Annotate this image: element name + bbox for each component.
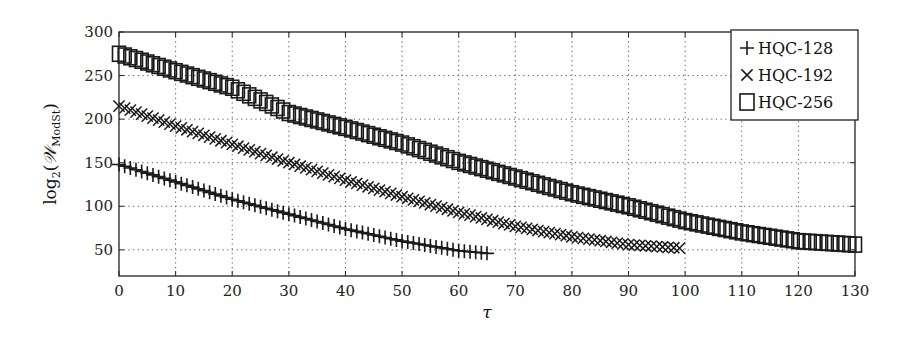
y-tick-label: 50 (94, 241, 113, 259)
y-tick-label: 250 (84, 67, 113, 85)
x-tick-label: 10 (166, 282, 185, 300)
legend: HQC-128HQC-192HQC-256 (731, 30, 858, 120)
y-tick-label: 150 (84, 154, 113, 172)
legend-label: HQC-256 (758, 93, 833, 112)
x-tick-label: 0 (114, 282, 124, 300)
legend-label: HQC-128 (758, 39, 833, 58)
x-tick-label: 120 (784, 282, 813, 300)
x-tick-label: 40 (336, 282, 355, 300)
svg-text:log2(𝒲ModSt): log2(𝒲ModSt) (40, 103, 63, 205)
x-tick-label: 110 (727, 282, 756, 300)
x-tick-label: 50 (393, 282, 412, 300)
series-hqc-192 (113, 100, 685, 253)
x-tick-label: 90 (619, 282, 638, 300)
x-tick-label: 60 (449, 282, 468, 300)
x-axis-label: τ (482, 302, 492, 322)
y-tick-label: 200 (84, 110, 113, 128)
x-tick-label: 30 (279, 282, 298, 300)
x-tick-label: 70 (506, 282, 525, 300)
x-tick-label: 130 (841, 282, 870, 300)
chart: 0102030405060708090100110120130 50100150… (0, 0, 909, 340)
x-tick-label: 20 (223, 282, 242, 300)
y-tick-label: 100 (84, 197, 113, 215)
series-hqc-128 (112, 157, 494, 260)
legend-label: HQC-192 (758, 66, 833, 85)
x-tick-label: 80 (562, 282, 581, 300)
legend-item-hqc-256: HQC-256 (740, 93, 833, 112)
y-axis-label: log2(𝒲ModSt) (40, 103, 63, 205)
x-tick-label: 100 (671, 282, 700, 300)
y-tick-label: 300 (84, 23, 113, 41)
